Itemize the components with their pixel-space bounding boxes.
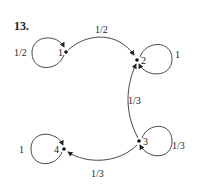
node-4-label: 4 xyxy=(54,144,59,155)
node-3-label: 3 xyxy=(143,136,148,147)
node-1-label: 1 xyxy=(58,47,63,58)
edge-3-4 xyxy=(68,145,137,160)
edge-label-3-2: 1/3 xyxy=(128,95,141,106)
problem-number: 13. xyxy=(14,19,29,33)
markov-chain-diagram: 13. 1/2 1/2 1 1/3 1/3 1/3 1 1 2 3 4 xyxy=(0,0,197,188)
edge-1-2 xyxy=(68,37,134,55)
node-2-label: 2 xyxy=(141,55,146,66)
edge-label-1-2: 1/2 xyxy=(95,24,108,35)
edge-label-3-4: 1/3 xyxy=(91,168,104,179)
node-3-dot xyxy=(137,139,141,143)
edge-label-3-3: 1/3 xyxy=(172,140,185,151)
node-2-dot xyxy=(135,58,139,62)
node-4-dot xyxy=(62,147,66,151)
edge-label-1-1: 1/2 xyxy=(14,47,27,58)
edge-label-2-2: 1 xyxy=(175,49,180,60)
edge-label-4-4: 1 xyxy=(19,144,24,155)
node-1-dot xyxy=(64,50,68,54)
